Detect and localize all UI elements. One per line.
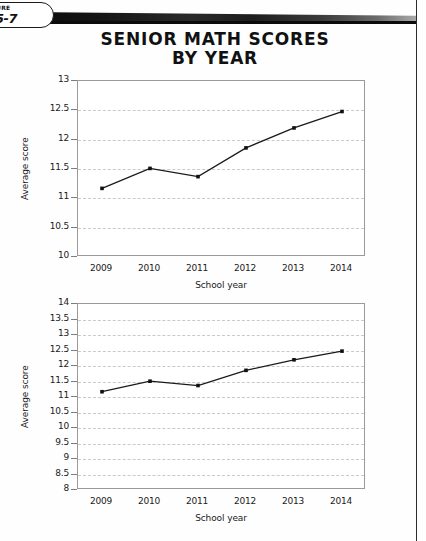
y-tick-label: 11.5 [29,375,69,385]
y-tick-label: 12 [29,359,69,369]
y-tick-mark [71,319,77,320]
y-axis-title: Average score [20,365,30,428]
page-header-rule-shadow [26,21,417,24]
data-point-marker [340,110,344,114]
data-point-marker [148,379,152,383]
x-tick-label: 2010 [124,263,174,273]
x-tick-label: 2011 [172,263,222,273]
y-tick-label: 8 [29,483,69,493]
y-tick-mark [71,443,77,444]
y-tick-mark [71,197,77,198]
x-tick-label: 2009 [76,263,126,273]
figure-number-tab: URE 5-7 [0,2,54,28]
x-tick-label: 2012 [220,263,270,273]
y-tick-label: 11 [29,191,69,201]
y-tick-mark [71,334,77,335]
data-point-marker [244,146,248,150]
data-point-marker [292,358,296,362]
x-tick-label: 2010 [124,496,174,506]
y-tick-label: 10 [29,421,69,431]
y-tick-label: 12 [29,133,69,143]
figure-tab-line2: 5-7 [0,11,17,26]
y-axis-title: Average score [20,137,30,200]
y-tick-mark [71,489,77,490]
y-tick-label: 9 [29,452,69,462]
y-tick-label: 11.5 [29,162,69,172]
page-edge-line [416,0,417,541]
y-tick-label: 12.5 [29,344,69,354]
chart-top-series [78,81,366,257]
x-tick-label: 2012 [220,496,270,506]
y-tick-label: 12.5 [29,103,69,113]
y-tick-mark [71,109,77,110]
y-tick-label: 13 [29,328,69,338]
data-point-marker [196,384,200,388]
y-tick-label: 13 [29,74,69,84]
y-tick-label: 11 [29,390,69,400]
y-tick-label: 10.5 [29,406,69,416]
x-tick-label: 2011 [172,496,222,506]
data-point-marker [340,349,344,353]
y-tick-mark [71,365,77,366]
data-point-marker [244,369,248,373]
y-tick-label: 8.5 [29,468,69,478]
y-tick-mark [71,381,77,382]
chart-title: SENIOR MATH SCORES BY YEAR [40,30,390,68]
y-tick-mark [71,412,77,413]
data-point-marker [100,390,104,394]
y-tick-mark [71,80,77,81]
chart-top-plot-area [77,80,365,256]
data-point-marker [100,187,104,191]
x-axis-title: School year [77,513,365,523]
data-point-marker [148,167,152,171]
y-tick-label: 9.5 [29,437,69,447]
y-tick-mark [71,303,77,304]
chart-title-line1: SENIOR MATH SCORES [40,30,390,49]
chart-bottom-plot-area [77,303,365,489]
x-tick-label: 2013 [268,263,318,273]
y-tick-mark [71,458,77,459]
chart-title-line2: BY YEAR [40,49,390,68]
data-point-marker [196,175,200,179]
y-tick-mark [71,396,77,397]
y-tick-label: 10.5 [29,221,69,231]
y-tick-mark [71,350,77,351]
x-tick-label: 2014 [316,496,366,506]
y-tick-mark [71,139,77,140]
x-tick-label: 2009 [76,496,126,506]
y-tick-label: 13.5 [29,313,69,323]
figure-tab-line1: URE [0,4,11,11]
y-tick-mark [71,256,77,257]
x-tick-label: 2013 [268,496,318,506]
data-point-marker [292,126,296,130]
series-line [102,351,342,392]
y-tick-mark [71,227,77,228]
x-axis-title: School year [77,280,365,290]
y-tick-mark [71,474,77,475]
series-line [102,112,342,189]
y-tick-mark [71,168,77,169]
y-tick-label: 10 [29,250,69,260]
chart-bottom-series [78,304,366,490]
y-tick-label: 14 [29,297,69,307]
scanned-page: URE 5-7 SENIOR MATH SCORES BY YEAR 1010.… [0,0,426,541]
y-tick-mark [71,427,77,428]
x-tick-label: 2014 [316,263,366,273]
